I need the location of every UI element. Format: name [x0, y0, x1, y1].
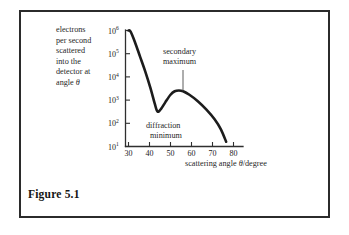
diffraction-minimum-annotation: diffraction minimum	[146, 121, 182, 140]
theta-symbol-y: θ	[76, 78, 80, 87]
figure-caption: Figure 5.1	[28, 188, 80, 200]
x-tick-label-50: 50	[167, 149, 175, 158]
x-tick-label-30: 30	[125, 149, 133, 158]
y-axis-caption-line4: into the	[56, 57, 118, 68]
x-tick-label-70: 70	[209, 149, 217, 158]
x-tick-label-40: 40	[146, 149, 154, 158]
x-axis-tick-labels: 30 40 50 60 70 80	[125, 149, 238, 158]
x-axis-caption: scattering angle θ/degree	[185, 159, 267, 168]
figure-root: 106 105 104 103 102 101	[0, 0, 349, 235]
x-tick-label-60: 60	[188, 149, 196, 158]
y-axis-caption-line5: detector at	[56, 67, 118, 78]
secondary-maximum-line2: maximum	[163, 57, 197, 66]
x-axis-ticks	[129, 142, 234, 147]
y-axis-caption: electrons per second scattered into the …	[56, 25, 118, 89]
x-tick-label-80: 80	[230, 149, 238, 158]
y-axis-caption-line3: scattered	[56, 46, 118, 57]
y-tick-label-10e2: 102	[108, 118, 119, 128]
y-axis-caption-line6: angle θ	[56, 78, 118, 89]
x-axis-caption-prefix: scattering angle	[185, 159, 239, 168]
y-axis-caption-line2: per second	[56, 36, 118, 47]
y-axis-caption-angle-word: angle	[56, 78, 76, 87]
x-axis-caption-suffix: /degree	[243, 159, 267, 168]
y-tick-label-10e3: 103	[108, 95, 119, 105]
secondary-maximum-line1: secondary	[163, 47, 197, 56]
y-axis-ticks	[126, 31, 131, 147]
diffraction-minimum-line1: diffraction	[146, 121, 180, 130]
secondary-maximum-annotation: secondary maximum	[163, 47, 197, 66]
diffraction-minimum-line2: minimum	[150, 131, 182, 140]
y-axis-caption-line1: electrons	[56, 25, 118, 36]
y-tick-label-10e1: 101	[108, 141, 119, 151]
